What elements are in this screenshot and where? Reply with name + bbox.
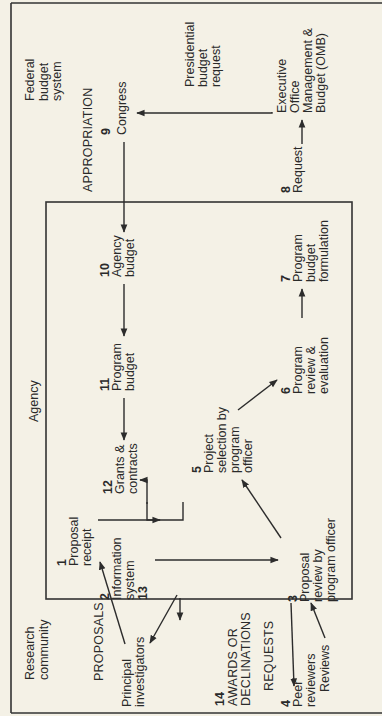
svg-text:budget: budget xyxy=(196,48,210,87)
svg-text:Request: Request xyxy=(291,146,305,193)
node-request: 8 Request xyxy=(279,146,305,193)
svg-text:Program: Program xyxy=(291,234,305,282)
svg-text:contracts: contracts xyxy=(126,443,140,494)
svg-text:9: 9 xyxy=(99,128,113,135)
svg-text:DECLINATIONS: DECLINATIONS xyxy=(239,612,253,706)
arrow-reviews-to-proposal-review xyxy=(311,603,325,638)
node-project-selection: 5 Project selection by program officer xyxy=(190,406,255,473)
svg-text:Proposal: Proposal xyxy=(67,517,81,566)
svg-text:Project: Project xyxy=(202,434,216,473)
arrow-grants-information-system xyxy=(140,480,183,520)
svg-text:Principal: Principal xyxy=(120,659,134,707)
svg-text:budget: budget xyxy=(123,352,137,391)
svg-text:Program: Program xyxy=(291,346,305,394)
awards-declinations-label: 14 AWARDS OR DECLINATIONS xyxy=(213,612,253,706)
node-peer-reviewers: 4 Peer reviewers xyxy=(279,654,318,708)
federal-budget-system-label: Federal budget system xyxy=(23,59,64,101)
svg-text:program officer: program officer xyxy=(324,518,338,602)
svg-text:community: community xyxy=(37,619,51,680)
node-information-system: 2 Information system 13 xyxy=(98,537,150,600)
svg-text:reviewers: reviewers xyxy=(304,654,318,708)
svg-text:budget: budget xyxy=(304,243,318,282)
svg-text:Program: Program xyxy=(110,343,124,391)
svg-text:Agency: Agency xyxy=(110,235,124,277)
research-community-label: Research community xyxy=(23,619,51,680)
node-congress: 9 Congress xyxy=(99,82,129,136)
svg-text:Information: Information xyxy=(110,537,124,600)
node-program-budget: 11 Program budget xyxy=(98,343,137,391)
svg-text:AWARDS OR: AWARDS OR xyxy=(226,628,240,706)
svg-text:investigators: investigators xyxy=(133,637,147,707)
svg-text:review by: review by xyxy=(311,548,325,602)
node-proposal-review: 3 Proposal review by program officer xyxy=(286,518,338,602)
svg-text:budget: budget xyxy=(123,238,137,277)
node-program-budget-formulation: 7 Program budget formulation xyxy=(279,220,331,282)
svg-text:system: system xyxy=(50,61,64,101)
svg-text:Grants &: Grants & xyxy=(113,444,127,494)
svg-text:Peer: Peer xyxy=(291,681,305,707)
svg-text:program: program xyxy=(228,426,242,473)
arrow-omb-to-congress xyxy=(137,112,272,113)
arrow-review-to-selection xyxy=(242,480,281,538)
svg-text:Management &: Management & xyxy=(301,28,315,113)
proposals-label: PROPOSALS xyxy=(92,602,106,681)
svg-text:selection by: selection by xyxy=(215,406,229,473)
svg-text:budget: budget xyxy=(37,62,51,101)
arrow-review-to-peer-reviewers xyxy=(291,603,294,686)
node-omb: Executive Office Management & Budget (OM… xyxy=(275,28,328,113)
svg-text:system: system xyxy=(123,560,137,600)
svg-text:Budget (OMB): Budget (OMB) xyxy=(314,33,328,113)
node-agency-budget: 10 Agency budget xyxy=(98,235,137,277)
presidential-budget-request-label: Presidential budget request xyxy=(183,22,223,87)
arrow-info-to-investigators xyxy=(150,595,177,643)
node-program-review: 6 Program review & evaluation xyxy=(279,337,331,394)
svg-text:14: 14 xyxy=(213,692,227,706)
svg-text:request: request xyxy=(209,45,223,87)
node-principal-investigators: Principal investigators xyxy=(120,637,147,707)
appropriation-label: APPROPRIATION xyxy=(81,88,95,192)
svg-text:officer: officer xyxy=(241,439,255,473)
agency-region-label: Agency xyxy=(27,380,41,422)
svg-text:formulation: formulation xyxy=(317,220,331,282)
svg-text:Presidential: Presidential xyxy=(183,22,197,87)
svg-text:evaluation: evaluation xyxy=(317,337,331,394)
svg-text:receipt: receipt xyxy=(80,528,94,566)
reviews-label: Reviews xyxy=(318,645,332,692)
svg-text:Proposal: Proposal xyxy=(298,553,312,602)
budget-process-diagram: Federal budget system Agency Research co… xyxy=(0,0,382,716)
arrow-selection-to-program-review xyxy=(238,380,277,410)
svg-text:review &: review & xyxy=(304,345,318,394)
svg-text:Federal: Federal xyxy=(23,59,37,101)
svg-text:13: 13 xyxy=(136,586,150,600)
node-proposal-receipt: 1 Proposal receipt xyxy=(55,517,94,566)
svg-text:Research: Research xyxy=(23,626,37,680)
node-grants-contracts: 12 Grants & contracts xyxy=(101,443,140,494)
svg-text:Congress: Congress xyxy=(115,82,129,136)
svg-text:Executive: Executive xyxy=(275,59,289,113)
svg-text:Office: Office xyxy=(288,81,302,113)
requests-label: REQUESTS xyxy=(262,621,276,691)
